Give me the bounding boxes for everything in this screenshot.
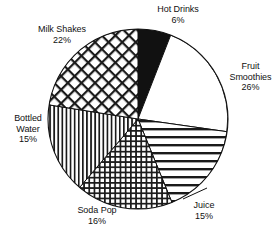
pie-label-fruit-smoothies-name-line1: Fruit	[222, 61, 279, 72]
pie-label-hot-drinks: Hot Drinks 6%	[141, 4, 215, 25]
pie-label-bottled-water-value: 15%	[2, 134, 54, 145]
pie-label-juice-value: 15%	[178, 211, 230, 222]
pie-label-bottled-water: Bottled Water 15%	[2, 113, 54, 145]
pie-label-milk-shakes-value: 22%	[23, 35, 101, 46]
pie-chart: Hot Drinks 6% Fruit Smoothies 26% Juice …	[0, 0, 279, 243]
pie-label-milk-shakes-name: Milk Shakes	[23, 24, 101, 35]
pie-label-fruit-smoothies-name-line2: Smoothies	[222, 72, 279, 83]
pie-label-juice-name: Juice	[178, 200, 230, 211]
pie-label-soda-pop-value: 16%	[60, 216, 134, 227]
pie-label-fruit-smoothies: Fruit Smoothies 26%	[222, 61, 279, 93]
pie-label-juice: Juice 15%	[178, 200, 230, 221]
pie-label-bottled-water-name-line1: Bottled	[2, 113, 54, 124]
pie-label-hot-drinks-name: Hot Drinks	[141, 4, 215, 15]
pie-label-bottled-water-name-line2: Water	[2, 124, 54, 135]
pie-label-soda-pop: Soda Pop 16%	[60, 205, 134, 226]
pie-label-hot-drinks-value: 6%	[141, 15, 215, 26]
pie-label-milk-shakes: Milk Shakes 22%	[23, 24, 101, 45]
pie-label-fruit-smoothies-value: 26%	[222, 82, 279, 93]
pie-label-soda-pop-name: Soda Pop	[60, 205, 134, 216]
